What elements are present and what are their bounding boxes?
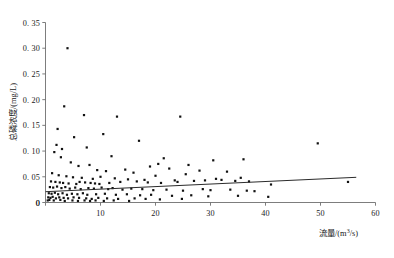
data-point (113, 199, 115, 201)
data-point (70, 161, 72, 163)
data-point (73, 136, 75, 138)
data-point (60, 156, 62, 158)
data-point (179, 116, 181, 118)
data-point (143, 179, 145, 181)
data-point (168, 167, 170, 169)
data-point (174, 179, 176, 181)
data-point (160, 182, 162, 184)
data-point (103, 200, 105, 202)
x-axis-ticks: 102030405060 (46, 203, 380, 218)
x-tick-label: 50 (316, 209, 325, 218)
data-point (92, 178, 94, 180)
x-tick-label: 20 (151, 209, 160, 218)
data-point (47, 196, 49, 198)
data-point (190, 194, 192, 196)
data-point (215, 178, 217, 180)
data-point (165, 189, 167, 191)
x-tick-label: 60 (371, 209, 380, 218)
y-tick-label: 0. 15 (23, 121, 40, 130)
data-point (110, 155, 112, 157)
data-point (182, 190, 184, 192)
data-point (147, 181, 149, 183)
data-point (53, 199, 55, 201)
data-point (141, 188, 143, 190)
data-point (116, 116, 118, 118)
data-point (132, 172, 134, 174)
y-tick-label: 0. 35 (23, 19, 40, 28)
data-point (86, 146, 88, 148)
data-point (87, 187, 89, 189)
data-point (97, 197, 99, 199)
data-point (114, 177, 116, 179)
data-point (209, 189, 211, 191)
data-point (126, 193, 128, 195)
data-point (145, 198, 147, 200)
y-axis-ticks: 00. 050. 100. 150. 200. 250. 300. 350 (23, 19, 46, 208)
data-point (267, 196, 269, 198)
origin-tick-label: 0 (36, 199, 40, 208)
data-point (317, 142, 319, 144)
data-point (85, 197, 87, 199)
data-point (202, 188, 204, 190)
data-point (59, 181, 61, 183)
data-point (226, 171, 228, 173)
data-point (66, 194, 68, 196)
data-point (59, 199, 61, 201)
data-point (119, 181, 121, 183)
data-point (181, 198, 183, 200)
data-point (63, 197, 65, 199)
x-tick-label: 30 (206, 209, 215, 218)
data-point (58, 174, 60, 176)
data-point (98, 183, 100, 185)
data-point (136, 180, 138, 182)
data-point (75, 183, 77, 185)
data-point (74, 186, 76, 188)
data-point (99, 176, 101, 178)
data-point (48, 192, 50, 194)
data-point (101, 186, 103, 188)
x-tick-label: 10 (96, 209, 105, 218)
data-point (94, 182, 96, 184)
data-point (204, 179, 206, 181)
data-point (50, 180, 52, 182)
data-point (79, 181, 81, 183)
chart-canvas: 00. 050. 100. 150. 200. 250. 300. 350 10… (0, 0, 394, 258)
data-point (54, 181, 56, 183)
data-point (193, 180, 195, 182)
data-point (60, 187, 62, 189)
data-point (96, 169, 98, 171)
data-point (134, 197, 136, 199)
data-point (57, 128, 59, 130)
data-point (139, 194, 141, 196)
data-point (56, 185, 58, 187)
data-point (220, 179, 222, 181)
data-point (159, 198, 161, 200)
data-point (150, 194, 152, 196)
data-point (50, 193, 52, 195)
data-point (157, 163, 159, 165)
data-point (69, 188, 71, 190)
data-point (71, 199, 73, 201)
data-point (61, 192, 63, 194)
data-point (240, 177, 242, 179)
data-point (77, 165, 79, 167)
data-point (121, 189, 123, 191)
data-point (53, 151, 55, 153)
data-point (55, 197, 57, 199)
data-point (234, 180, 236, 182)
data-point (242, 158, 244, 160)
data-point (64, 186, 66, 188)
data-point (86, 194, 88, 196)
y-tick-label: 0. 10 (23, 147, 40, 156)
data-point (115, 194, 117, 196)
data-point (76, 193, 78, 195)
data-point (49, 186, 51, 188)
data-point (67, 197, 69, 199)
x-axis-title: 流量/(m3/s) (319, 228, 358, 238)
data-point (105, 170, 107, 172)
data-point (347, 181, 349, 183)
data-point (154, 175, 156, 177)
data-point (212, 159, 214, 161)
x-tick-label: 40 (261, 209, 270, 218)
data-point (58, 196, 60, 198)
